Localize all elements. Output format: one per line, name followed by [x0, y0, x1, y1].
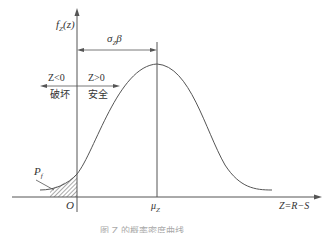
- arrowhead-left-icon: [77, 48, 84, 52]
- density-curve: [40, 64, 272, 190]
- y-axis-label: fZ(z): [56, 19, 75, 33]
- safe-label: 安全: [88, 90, 108, 100]
- mean-label: μZ: [151, 201, 160, 214]
- region-arrow-left-icon: [40, 84, 47, 88]
- failure-label: 破坏: [50, 90, 70, 100]
- z-negative-label: Z<0: [48, 73, 65, 83]
- z-positive-label: Z>0: [88, 73, 105, 83]
- arrowhead-right-icon: [150, 48, 157, 52]
- failure-probability-label: Pf: [34, 166, 43, 180]
- origin-label: O: [66, 200, 74, 211]
- x-axis-label: Z=R−S: [279, 201, 309, 211]
- y-axis-arrow-icon: [75, 8, 80, 16]
- diagram-canvas: [0, 0, 327, 233]
- pf-leader: [36, 180, 54, 190]
- sigma-beta-label: σZβ: [107, 33, 122, 47]
- x-axis-arrow-icon: [314, 195, 322, 200]
- figure-caption: 图 Z 的概率密度曲线: [100, 224, 184, 233]
- region-arrow-right-icon: [113, 84, 120, 88]
